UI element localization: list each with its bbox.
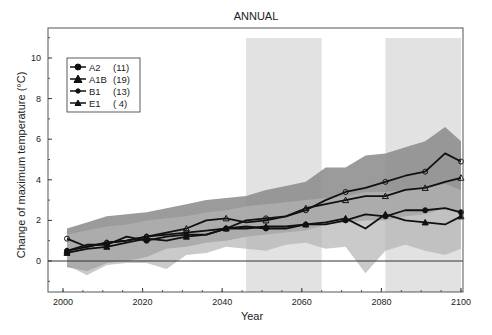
- x-tick-label: 2080: [371, 297, 391, 307]
- y-tick-label: 0: [36, 256, 41, 266]
- marker-circle-icon: [75, 64, 81, 70]
- x-tick-label: 2000: [53, 297, 73, 307]
- x-tick-label: 2040: [212, 297, 232, 307]
- y-tick-label: 10: [31, 53, 41, 63]
- x-tick-label: 2020: [133, 297, 153, 307]
- y-tick-label: 2: [36, 215, 41, 225]
- y-tick-label: 6: [36, 134, 41, 144]
- marker-circle-icon: [76, 89, 80, 93]
- legend-count: (11): [113, 62, 129, 73]
- legend-label: A1B: [89, 74, 107, 85]
- shaded-period-1: [246, 38, 322, 292]
- chart-title: ANNUAL: [234, 10, 279, 22]
- x-axis-label: Year: [241, 310, 264, 322]
- legend-label: B1: [89, 86, 101, 97]
- y-tick-label: 8: [36, 94, 41, 104]
- y-axis-label: Change of maximum temperature (°C): [15, 72, 27, 259]
- marker-circle-icon: [423, 208, 428, 213]
- legend-count: (13): [113, 86, 130, 97]
- x-tick-label: 2060: [292, 297, 312, 307]
- legend-count: (19): [113, 74, 130, 85]
- legend: A2(11)A1B(19)B1(13)E1( 4): [67, 58, 140, 112]
- legend-label: A2: [89, 62, 101, 73]
- temperature-change-chart: ANNUAL 2000202020402060208021000246810 Y…: [0, 0, 492, 335]
- x-tick-label: 2100: [451, 297, 471, 307]
- legend-count: ( 4): [113, 98, 127, 109]
- legend-label: E1: [89, 98, 101, 109]
- y-tick-label: 4: [36, 175, 41, 185]
